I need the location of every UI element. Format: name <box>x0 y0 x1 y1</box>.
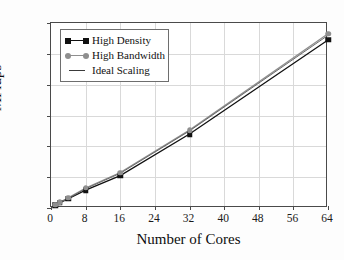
data-point-marker <box>325 31 331 37</box>
x-tick <box>155 206 156 210</box>
legend-item-ideal-scaling: Ideal Scaling <box>65 63 164 78</box>
y-tick <box>47 85 51 86</box>
x-tick <box>51 206 52 210</box>
y-tick <box>47 177 51 178</box>
x-tick <box>293 206 294 210</box>
legend-label: High Bandwidth <box>92 50 165 61</box>
x-tick <box>259 206 260 210</box>
y-tick <box>47 116 51 117</box>
data-point-marker <box>187 127 193 133</box>
x-tick <box>120 206 121 210</box>
data-point-marker <box>118 170 124 176</box>
legend-item-high-density: High Density <box>65 33 164 48</box>
legend-label: High Density <box>92 35 151 46</box>
data-point-marker <box>57 200 63 206</box>
x-tick <box>224 206 225 210</box>
legend-label: Ideal Scaling <box>92 65 150 76</box>
x-tick <box>328 206 329 210</box>
y-tick <box>47 23 51 24</box>
legend-key-circle-icon <box>65 50 89 61</box>
chart-legend: High Density High Bandwidth Ideal Scalin… <box>60 29 169 82</box>
x-axis-title: Number of Cores <box>50 231 327 248</box>
data-point-marker <box>83 185 89 191</box>
legend-item-high-bandwidth: High Bandwidth <box>65 48 164 63</box>
data-point-marker <box>325 37 331 43</box>
legend-key-square-icon <box>65 35 89 46</box>
x-tick-label: 64 <box>307 213 344 225</box>
y-axis-title: MFlups <box>0 28 5 148</box>
data-point-marker <box>66 195 72 201</box>
chart-figure: 0204060801001200816243240485664 MFlups N… <box>0 0 344 260</box>
x-tick <box>190 206 191 210</box>
y-tick <box>47 146 51 147</box>
legend-key-line-icon <box>65 65 89 76</box>
y-tick <box>47 54 51 55</box>
x-tick <box>86 206 87 210</box>
